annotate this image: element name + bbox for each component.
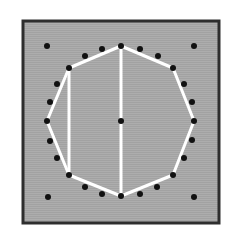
grid-dot xyxy=(118,118,124,124)
grid-dot xyxy=(137,191,143,197)
octagon-dot-diagram xyxy=(0,0,235,251)
grid-dot xyxy=(66,172,72,178)
grid-dot xyxy=(181,81,187,87)
grid-dot xyxy=(191,118,197,124)
grid-dot xyxy=(54,81,60,87)
grid-dot xyxy=(44,43,50,49)
grid-dot xyxy=(189,137,195,143)
grid-dot xyxy=(82,53,88,59)
grid-dot xyxy=(82,184,88,190)
grid-dot xyxy=(170,65,176,71)
grid-dot xyxy=(47,138,53,144)
grid-dot xyxy=(99,46,105,52)
grid-dot xyxy=(44,118,50,124)
grid-dot xyxy=(170,172,176,178)
grid-dot xyxy=(45,194,51,200)
grid-dot xyxy=(66,65,72,71)
grid-dot xyxy=(181,155,187,161)
grid-dot xyxy=(137,46,143,52)
grid-dot xyxy=(191,43,197,49)
grid-dot xyxy=(47,99,53,105)
grid-dot xyxy=(118,43,124,49)
grid-dot xyxy=(99,191,105,197)
grid-dot xyxy=(191,194,197,200)
grid-dot xyxy=(118,193,124,199)
grid-dot xyxy=(154,184,160,190)
grid-dot xyxy=(155,53,161,59)
grid-dot xyxy=(189,99,195,105)
grid-dot xyxy=(54,155,60,161)
